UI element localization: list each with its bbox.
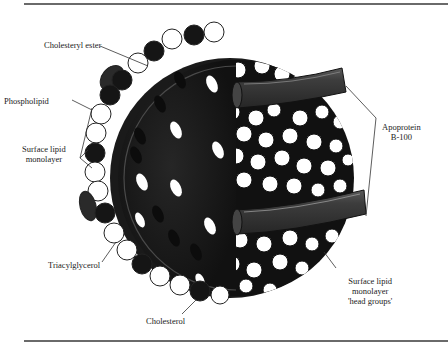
label-head-groups: Surface lipid monolayer 'head groups' [348, 276, 392, 306]
label-phospholipid: Phospholipid [4, 96, 49, 106]
label-line: B-100 [382, 132, 421, 142]
label-line: Surface lipid [348, 276, 392, 286]
label-cholesterol: Cholesterol [146, 316, 185, 326]
label-triacylglycerol: Triacylglycerol [48, 260, 100, 270]
label-line: monolayer [348, 286, 392, 296]
label-apoprotein-b100: Apoprotein B-100 [382, 122, 421, 142]
label-line: monolayer [22, 154, 66, 164]
label-line: Apoprotein [382, 122, 421, 132]
label-line: 'head groups' [348, 296, 392, 306]
label-surface-lipid-monolayer: Surface lipid monolayer [22, 144, 66, 164]
label-cholesteryl-ester: Cholesteryl ester [44, 40, 101, 50]
label-line: Surface lipid [22, 144, 66, 154]
